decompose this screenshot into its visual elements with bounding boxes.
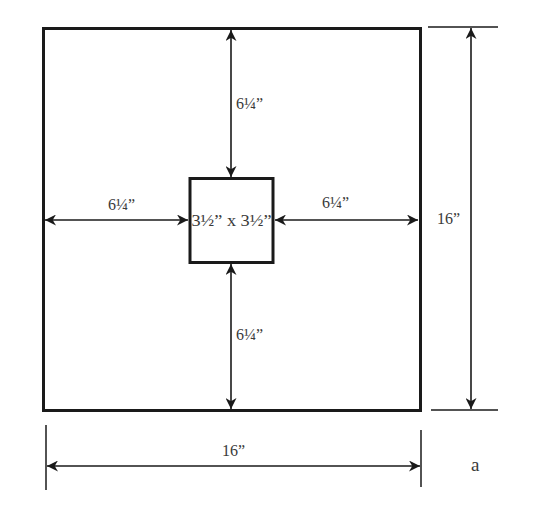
- left-margin-label: 6¼”: [108, 196, 135, 213]
- height-label: 16”: [437, 210, 460, 227]
- top-margin-label: 6¼”: [236, 95, 263, 112]
- right-margin-label: 6¼”: [322, 194, 349, 211]
- inner-square-label: 3½” x 3½”: [192, 212, 272, 229]
- bottom-margin-label: 6¼”: [236, 326, 263, 343]
- figure-label: a: [471, 454, 480, 475]
- dimension-diagram: 6¼” 6¼” 6¼” 6¼” 3½” x 3½” 16” 16” a: [0, 0, 534, 520]
- width-label: 16”: [222, 442, 245, 459]
